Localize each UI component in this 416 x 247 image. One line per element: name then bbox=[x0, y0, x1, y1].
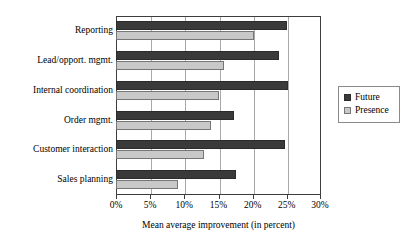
x-tick bbox=[150, 195, 151, 199]
x-tick-label: 25% bbox=[278, 200, 295, 211]
category-label: Lead/opport. mgmt. bbox=[3, 55, 113, 65]
legend: Future Presence bbox=[338, 86, 400, 123]
category-label: Internal coordination bbox=[3, 85, 113, 95]
x-tick bbox=[116, 195, 117, 199]
x-tick-label: 5% bbox=[144, 200, 157, 211]
category-label: Customer interaction bbox=[3, 144, 113, 154]
x-axis-title: Mean average improvement (in percent) bbox=[116, 219, 321, 231]
x-tick-label: 0% bbox=[110, 200, 123, 211]
category-label: Reporting bbox=[3, 25, 113, 35]
bar-chart-figure: Reporting Lead/opport. mgmt. Internal co… bbox=[0, 0, 416, 247]
x-tick-label: 20% bbox=[244, 200, 261, 211]
legend-label-future: Future bbox=[355, 91, 380, 104]
legend-item-presence: Presence bbox=[344, 104, 394, 117]
x-tick bbox=[287, 195, 288, 199]
x-tick bbox=[219, 195, 220, 199]
legend-swatch-future bbox=[344, 94, 351, 101]
x-tick-label: 30% bbox=[311, 200, 328, 211]
x-tick bbox=[320, 195, 321, 199]
x-tick bbox=[253, 195, 254, 199]
category-label: Sales planning bbox=[3, 174, 113, 184]
legend-item-future: Future bbox=[344, 91, 394, 104]
x-axis: 0% 5% 10% 15% 20% 25% 30% bbox=[116, 195, 321, 219]
x-tick bbox=[184, 195, 185, 199]
legend-swatch-presence bbox=[344, 107, 351, 114]
legend-label-presence: Presence bbox=[355, 104, 389, 117]
x-tick-label: 10% bbox=[176, 200, 193, 211]
x-tick-label: 15% bbox=[210, 200, 227, 211]
category-label: Order mgmt. bbox=[3, 115, 113, 125]
